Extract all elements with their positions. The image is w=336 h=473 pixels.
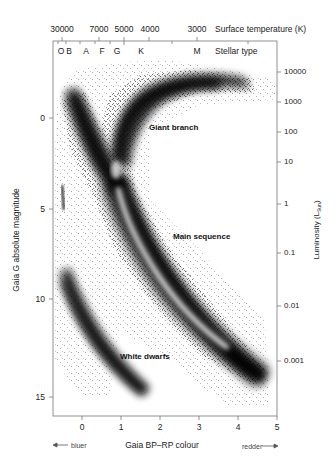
annotation-main-sequence: Main sequence [173, 233, 230, 241]
top-tick-3000: 3000 [188, 25, 207, 34]
type-B: B [66, 47, 72, 56]
type-M: M [193, 47, 200, 56]
type-A: A [83, 47, 89, 56]
type-K: K [138, 47, 144, 56]
bottom-axis-ticks [82, 416, 277, 420]
bottom-tick-1: 1 [119, 423, 124, 432]
stellar-type-title: Stellar type [215, 47, 258, 56]
type-G: G [114, 47, 121, 56]
redder-label: redder [242, 443, 262, 450]
type-O: O [58, 47, 65, 56]
right-tick-100: 100 [284, 128, 297, 136]
left-axis-title: Gaia G absolute magnitude [11, 188, 21, 291]
bottom-axis-title: Gaia BP–RP colour [125, 441, 199, 450]
top-tick-7000: 7000 [90, 25, 109, 34]
bluer-arrow-icon [53, 443, 68, 447]
right-axis-title: Luminosity (LSun) [312, 200, 323, 259]
bottom-tick-4: 4 [236, 423, 241, 432]
right-tick-10000: 10000 [284, 68, 306, 76]
top-tick-4000: 4000 [141, 25, 160, 34]
left-tick-15: 15 [36, 393, 45, 402]
left-tick-5: 5 [40, 205, 45, 214]
right-tick-0.001: 0.001 [284, 357, 304, 365]
bluer-label: bluer [71, 442, 87, 449]
right-tick-0.01: 0.01 [284, 302, 300, 310]
bottom-tick-2: 2 [158, 423, 163, 432]
right-tick-0.1: 0.1 [284, 249, 295, 257]
right-tick-1000: 1000 [284, 98, 302, 106]
annotation-white-dwarfs: White dwarfs [120, 353, 170, 361]
bottom-tick-5: 5 [275, 423, 280, 432]
top-tick-5000: 5000 [115, 25, 134, 34]
bottom-tick-0: 0 [80, 423, 85, 432]
left-tick-0: 0 [40, 114, 45, 123]
type-F: F [99, 47, 104, 56]
left-axis-ticks [49, 118, 53, 397]
right-axis-ticks [277, 72, 281, 361]
annotation-giant-branch: Giant branch [149, 124, 198, 132]
right-tick-1: 1 [284, 200, 288, 208]
right-tick-10: 10 [284, 158, 293, 166]
left-tick-10: 10 [36, 295, 45, 304]
top-tick-30000: 30000 [50, 25, 74, 34]
bottom-tick-3: 3 [197, 423, 202, 432]
top-axis-title: Surface temperature (K) [215, 25, 306, 34]
redder-arrow-icon [262, 444, 278, 448]
